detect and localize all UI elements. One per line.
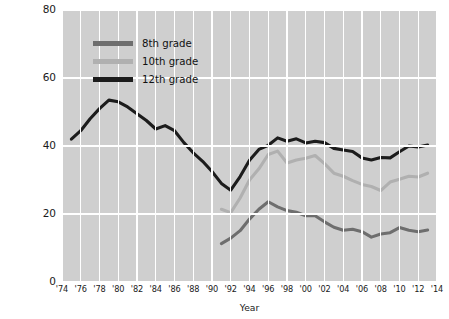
- x-tick-label: '02: [318, 284, 331, 294]
- gridline-horizontal: [62, 9, 437, 10]
- legend-swatch: [93, 77, 133, 81]
- legend-label: 8th grade: [142, 38, 192, 49]
- y-tick-label: 20: [18, 207, 56, 219]
- chart-figure: Trends in the percent of U.S. adolescent…: [0, 0, 449, 319]
- legend-item: 8th grade: [93, 38, 198, 49]
- legend-label: 12th grade: [142, 74, 198, 85]
- x-tick-label: '00: [299, 284, 312, 294]
- x-tick-label: '08: [374, 284, 387, 294]
- x-tick-label: '78: [93, 284, 106, 294]
- x-tick-label: '04: [337, 284, 350, 294]
- x-tick-label: '94: [243, 284, 256, 294]
- gridline-horizontal: [62, 213, 437, 214]
- x-tick-label: '14: [431, 284, 444, 294]
- y-tick-label: 60: [18, 71, 56, 83]
- gridline-horizontal: [62, 145, 437, 146]
- x-tick-label: '96: [262, 284, 275, 294]
- x-tick-label: '06: [356, 284, 369, 294]
- x-tick-label: '74: [56, 284, 69, 294]
- x-tick-label: '86: [168, 284, 181, 294]
- x-tick-label: '80: [112, 284, 125, 294]
- legend-item: 10th grade: [93, 56, 198, 67]
- gridline-horizontal: [62, 281, 437, 282]
- x-tick-label: '84: [149, 284, 162, 294]
- x-axis-tick-labels: '74'76'78'80'82'84'86'88'90'92'94'96'98'…: [0, 284, 449, 300]
- x-tick-label: '10: [393, 284, 406, 294]
- x-tick-label: '12: [412, 284, 425, 294]
- y-tick-label: 80: [18, 3, 56, 15]
- legend-item: 12th grade: [93, 74, 198, 85]
- x-axis-label: Year: [62, 302, 437, 313]
- chart-legend: 8th grade10th grade12th grade: [93, 38, 198, 85]
- legend-swatch: [93, 41, 133, 45]
- x-tick-label: '90: [206, 284, 219, 294]
- y-tick-label: 40: [18, 139, 56, 151]
- legend-label: 10th grade: [142, 56, 198, 67]
- legend-swatch: [93, 59, 133, 63]
- x-tick-label: '76: [74, 284, 87, 294]
- x-tick-label: '92: [224, 284, 237, 294]
- x-tick-label: '98: [281, 284, 294, 294]
- x-tick-label: '82: [131, 284, 144, 294]
- x-tick-label: '88: [187, 284, 200, 294]
